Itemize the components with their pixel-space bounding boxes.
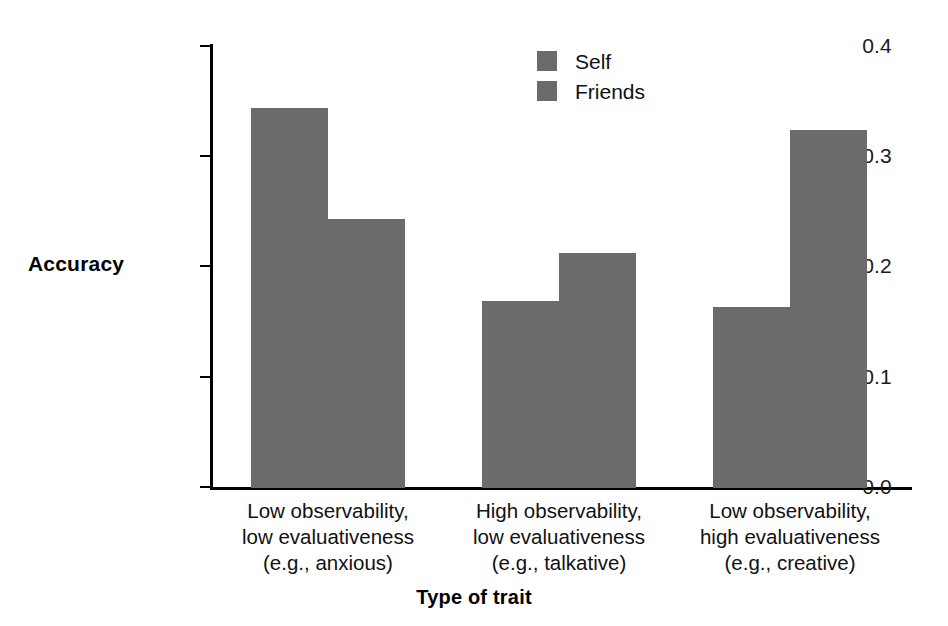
x-category-label-2: Low observability, high evaluativeness (…: [650, 498, 930, 576]
y-tick-mark-2: [200, 265, 212, 267]
bar-group-1: [482, 45, 636, 488]
bar-group-0: [251, 45, 405, 488]
y-tick-mark-0: [200, 486, 212, 488]
y-tick-mark-4: [200, 45, 212, 47]
bar-friends-0[interactable]: [328, 219, 405, 488]
bar-friends-2[interactable]: [790, 130, 867, 488]
bar-self-0[interactable]: [251, 108, 328, 488]
legend-label-friends: Friends: [575, 81, 645, 102]
legend-item-self[interactable]: Self: [537, 46, 645, 76]
chart-legend: Self Friends: [537, 46, 645, 106]
legend-swatch-self-icon: [537, 51, 557, 71]
x-category-label-2-line-1: high evaluativeness: [650, 524, 930, 550]
x-category-label-2-line-0: Low observability,: [650, 498, 930, 524]
x-axis-title: Type of trait: [0, 586, 948, 609]
bar-chart-figure: Accuracy 0.0 0.1 0.2 0.3 0.4 Low observ: [0, 0, 948, 626]
legend-item-friends[interactable]: Friends: [537, 76, 645, 106]
bar-self-2[interactable]: [713, 307, 790, 488]
x-category-label-2-line-2: (e.g., creative): [650, 550, 930, 576]
bar-friends-1[interactable]: [559, 253, 636, 488]
y-tick-mark-1: [200, 376, 212, 378]
y-axis-title: Accuracy: [28, 252, 124, 276]
bar-self-1[interactable]: [482, 301, 559, 488]
legend-label-self: Self: [575, 51, 611, 72]
bar-group-2: [713, 45, 867, 488]
y-tick-mark-3: [200, 155, 212, 157]
plot-area: 0.0 0.1 0.2 0.3 0.4: [212, 45, 912, 488]
legend-swatch-friends-icon: [537, 81, 557, 101]
